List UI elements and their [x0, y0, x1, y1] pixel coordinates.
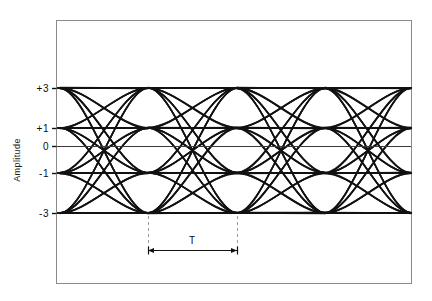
level-reference-lines [56, 88, 411, 213]
eye-diagram-canvas [0, 0, 432, 301]
y-tick-label: +3 [37, 83, 49, 94]
period-annotation-label: T [189, 235, 195, 246]
eye-traces [60, 88, 411, 214]
eye-diagram-figure: Amplitude +3+10-1-3 T [0, 0, 432, 301]
y-tick-label: +1 [37, 123, 49, 134]
y-tick-label: 0 [43, 141, 49, 152]
y-axis-ticks [52, 89, 57, 214]
y-tick-label: -3 [39, 208, 49, 219]
plot-frame [57, 21, 412, 284]
y-axis-title: Amplitude [12, 138, 22, 182]
y-tick-label: -1 [39, 168, 49, 179]
